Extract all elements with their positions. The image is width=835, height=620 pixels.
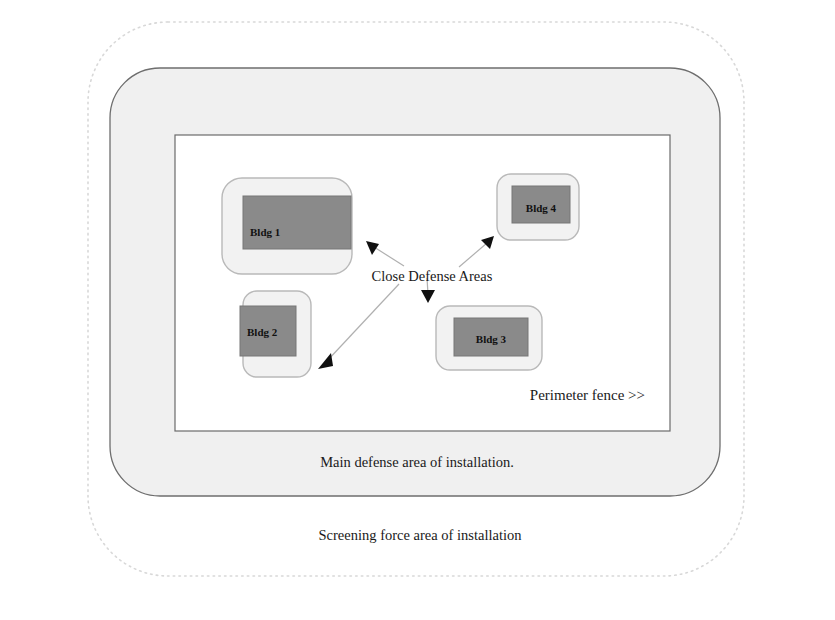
close-defense-areas-label: Close Defense Areas (372, 268, 493, 284)
building-label-bldg1: Bldg 1 (250, 226, 280, 238)
close-defense-area-bldg3[interactable]: Bldg 3 (436, 306, 542, 370)
screening-force-area-label: Screening force area of installation (319, 527, 523, 543)
diagram-root: Bldg 1 Bldg 2 Bldg 3 Bldg 4 (0, 0, 835, 620)
building-label-bldg2: Bldg 2 (247, 326, 278, 338)
close-defense-area-bldg1[interactable]: Bldg 1 (222, 178, 352, 274)
close-defense-area-bldg2[interactable]: Bldg 2 (240, 291, 311, 377)
building-block-bldg1 (243, 196, 351, 249)
perimeter-fence-label: Perimeter fence >> (530, 387, 645, 403)
defense-areas-diagram: Bldg 1 Bldg 2 Bldg 3 Bldg 4 (0, 0, 835, 620)
close-defense-area-bldg4[interactable]: Bldg 4 (497, 174, 579, 240)
building-label-bldg4: Bldg 4 (526, 202, 557, 214)
main-defense-area-label: Main defense area of installation. (320, 454, 514, 470)
building-label-bldg3: Bldg 3 (476, 333, 507, 345)
